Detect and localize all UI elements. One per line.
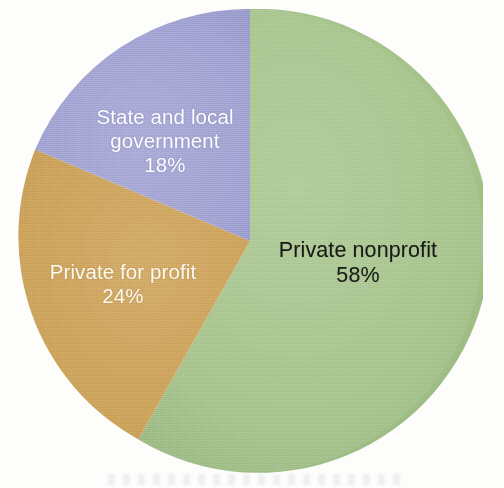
pie-chart-figure: Private nonprofit 58% State and local go… <box>0 0 504 488</box>
slice-label-private-nonprofit: Private nonprofit 58% <box>247 238 469 288</box>
slice-label-private-for-profit-name: Private for profit <box>22 260 224 284</box>
slice-label-private-nonprofit-value: 58% <box>247 263 469 288</box>
slice-label-private-nonprofit-name: Private nonprofit <box>247 238 469 263</box>
slice-label-state-and-local-government-value: 18% <box>62 153 268 177</box>
slice-label-state-and-local-government: State and local government 18% <box>62 105 268 176</box>
slice-label-state-and-local-government-name-line2: government <box>62 129 268 153</box>
slice-label-private-for-profit-value: 24% <box>22 284 224 308</box>
slice-label-private-for-profit: Private for profit 24% <box>22 260 224 308</box>
scan-bleedthrough-smudge <box>108 474 408 485</box>
slice-label-state-and-local-government-name-line1: State and local <box>62 105 268 129</box>
